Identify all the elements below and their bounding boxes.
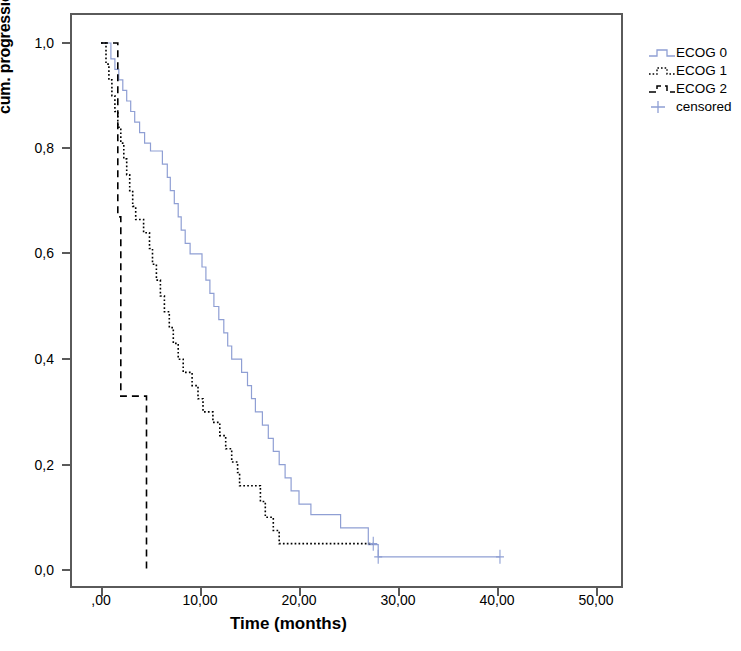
x-tick-label: 10,00 bbox=[182, 592, 217, 608]
step-dashed-icon bbox=[648, 82, 676, 96]
x-axis-title: Time (months) bbox=[230, 614, 347, 634]
chart-root: 1,0 0,8 0,6 0,4 0,2 0,0 ,00 10,00 20,00 … bbox=[0, 0, 741, 651]
plus-marker-icon bbox=[648, 100, 676, 114]
legend-item-censored: censored bbox=[648, 98, 740, 115]
x-tick-label: 30,00 bbox=[380, 592, 415, 608]
legend-label: ECOG 2 bbox=[676, 82, 727, 96]
legend-item-ecog-2: ECOG 2 bbox=[648, 80, 740, 97]
step-dotted-icon bbox=[648, 64, 676, 78]
legend-label: ECOG 1 bbox=[676, 64, 727, 78]
legend-item-ecog-0: ECOG 0 bbox=[648, 44, 740, 61]
legend-label: censored bbox=[676, 100, 732, 114]
y-axis-title-text: cum. progression-free survival bbox=[0, 0, 14, 150]
x-tick-label: ,00 bbox=[91, 592, 110, 608]
x-axis: ,00 10,00 20,00 30,00 40,00 50,00 bbox=[0, 0, 741, 651]
x-tick-label: 20,00 bbox=[281, 592, 316, 608]
y-axis-title: cum. progression-free survival bbox=[0, 0, 14, 150]
legend-label: ECOG 0 bbox=[676, 46, 727, 60]
legend: ECOG 0 ECOG 1 ECOG 2 censored bbox=[648, 44, 740, 116]
legend-item-ecog-1: ECOG 1 bbox=[648, 62, 740, 79]
step-solid-icon bbox=[648, 46, 676, 60]
x-tick-label: 40,00 bbox=[479, 592, 514, 608]
x-tick-label: 50,00 bbox=[578, 592, 613, 608]
